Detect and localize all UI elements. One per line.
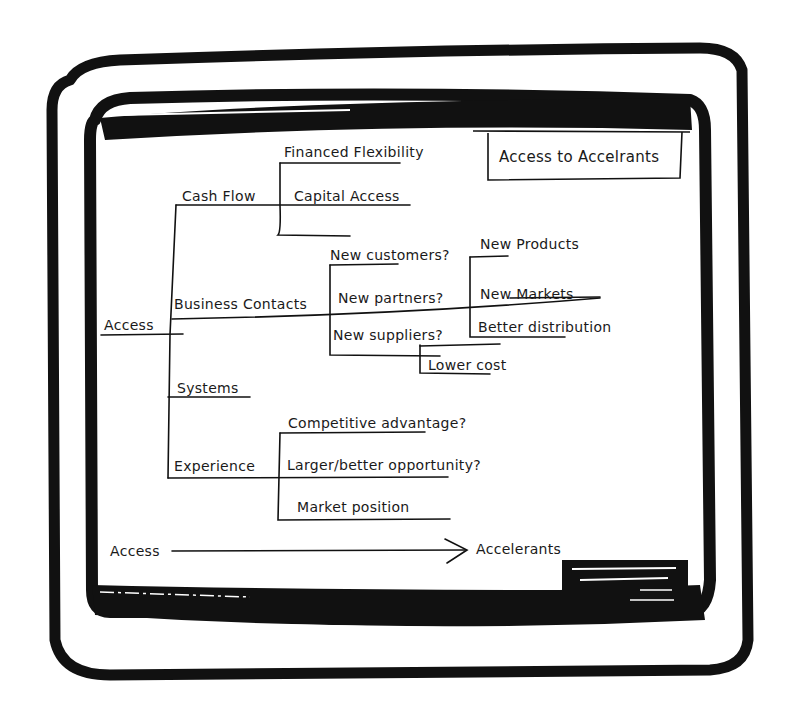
leaf-capital-access: Capital Access: [294, 189, 400, 203]
branch-systems: Systems: [177, 381, 239, 395]
leaf-new-products: New Products: [480, 237, 579, 251]
inner-screen-frame: [90, 94, 710, 612]
node-new-suppliers: New suppliers?: [333, 328, 443, 342]
root-node-access: Access: [104, 318, 154, 332]
leaf-market-position: Market position: [297, 500, 410, 514]
branch-cash-flow: Cash Flow: [182, 189, 256, 203]
top-bar: [100, 98, 692, 140]
flow-from-label: Access: [110, 544, 160, 558]
node-new-partners: New partners?: [338, 291, 444, 305]
leaf-better-distribution: Better distribution: [478, 320, 612, 334]
branch-experience: Experience: [174, 459, 255, 473]
title-box-label: Access to Accelrants: [499, 150, 659, 165]
leaf-larger-better-opportunity: Larger/better opportunity?: [287, 458, 481, 472]
flow-to-label: Accelerants: [476, 542, 561, 556]
leaf-competitive-advantage: Competitive advantage?: [288, 416, 466, 430]
branch-business-contacts: Business Contacts: [174, 297, 307, 311]
sketch-frame: [0, 0, 798, 720]
leaf-financed-flexibility: Financed Flexibility: [284, 145, 424, 159]
leaf-new-markets: New Markets: [480, 287, 574, 301]
leaf-lower-cost: Lower cost: [428, 358, 506, 372]
node-new-customers: New customers?: [330, 248, 450, 262]
